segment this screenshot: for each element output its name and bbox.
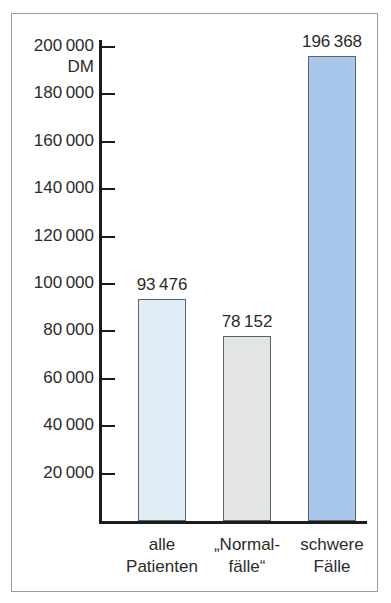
y-axis-tick-label: 120 000 bbox=[8, 226, 94, 246]
y-axis-tick bbox=[102, 425, 115, 427]
y-axis-tick-label: 180 000 bbox=[8, 83, 94, 103]
bar-value-label: 196 368 bbox=[282, 32, 382, 52]
y-axis-unit-label: DM bbox=[8, 57, 94, 77]
x-axis-category-label: schwereFälle bbox=[277, 534, 387, 578]
y-axis-tick-label: 20 000 bbox=[8, 463, 94, 483]
y-axis-tick bbox=[102, 188, 115, 190]
y-axis-tick-label: 160 000 bbox=[8, 131, 94, 151]
y-axis-tick-label: 80 000 bbox=[8, 320, 94, 340]
bar bbox=[223, 336, 271, 521]
x-axis-line bbox=[99, 521, 367, 524]
x-axis-category-label-line: Fälle bbox=[277, 556, 387, 578]
y-axis-tick-label: 100 000 bbox=[8, 273, 94, 293]
x-axis-category-label-line: schwere bbox=[277, 534, 387, 556]
y-axis-line bbox=[99, 40, 102, 524]
plot-area: 20 00040 00060 00080 000100 000120 00014… bbox=[0, 0, 391, 603]
y-axis-tick-label: 200 000 bbox=[8, 36, 94, 56]
bar bbox=[308, 56, 356, 521]
y-axis-tick bbox=[102, 330, 115, 332]
chart-page: 20 00040 00060 00080 000100 000120 00014… bbox=[0, 0, 391, 603]
y-axis-tick-label: 140 000 bbox=[8, 178, 94, 198]
y-axis-tick bbox=[102, 473, 115, 475]
y-axis-tick bbox=[102, 93, 115, 95]
bar-value-label: 93 476 bbox=[112, 275, 212, 295]
y-axis-tick bbox=[102, 378, 115, 380]
y-axis-tick-label: 60 000 bbox=[8, 368, 94, 388]
y-axis-tick bbox=[102, 141, 115, 143]
y-axis-tick-label: 40 000 bbox=[8, 415, 94, 435]
y-axis-tick bbox=[102, 236, 115, 238]
y-axis-tick bbox=[102, 46, 115, 48]
bar bbox=[138, 299, 186, 521]
bar-value-label: 78 152 bbox=[197, 312, 297, 332]
